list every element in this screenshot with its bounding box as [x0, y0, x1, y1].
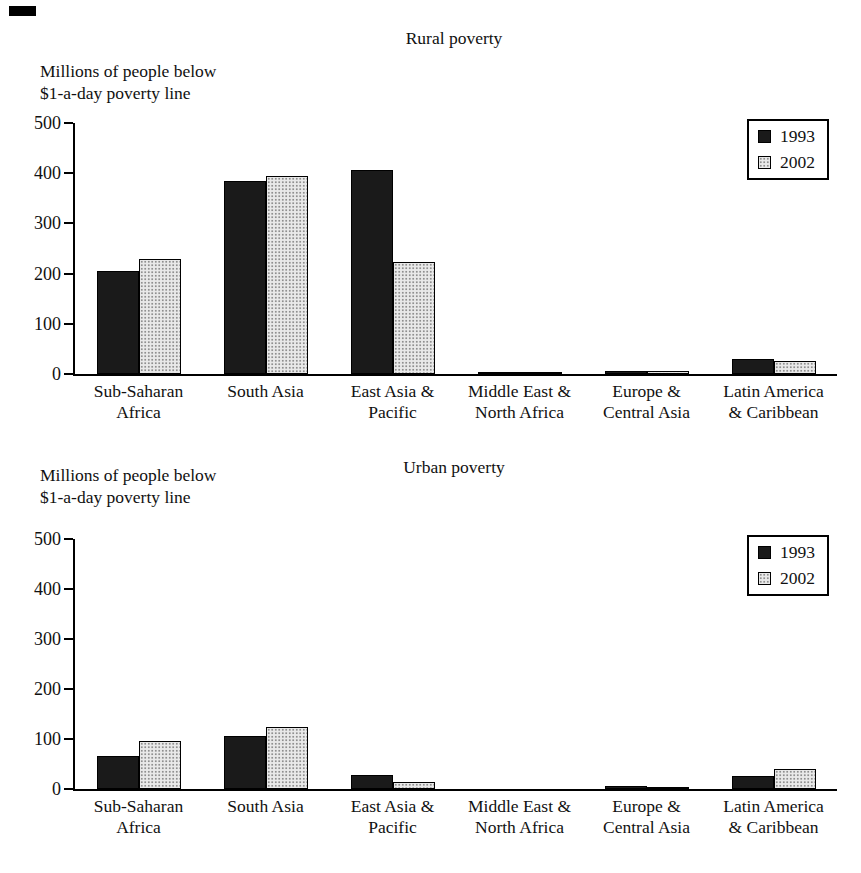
urban-y-axis-label-line1: Millions of people below	[40, 464, 216, 486]
legend-label-1993: 1993	[780, 126, 815, 147]
bar-1993-south-asia	[224, 181, 266, 374]
y-tick-label-300: 300	[13, 213, 61, 234]
bar-2002-latin-america-caribbean	[774, 769, 816, 789]
y-tick-label-200: 200	[13, 263, 61, 284]
bar-2002-south-asia	[266, 176, 308, 374]
legend-label-2002: 2002	[780, 152, 815, 173]
x-category-label-latin-america-caribbean: Latin America& Caribbean	[699, 381, 849, 423]
bar-2002-sub-saharan-africa	[139, 259, 181, 374]
y-tick-label-100: 100	[13, 729, 61, 750]
bar-1993-south-asia	[224, 736, 266, 790]
bar-1993-east-asia-pacific	[351, 775, 393, 789]
y-tick-label-200: 200	[13, 679, 61, 700]
corner-scan-mark	[9, 6, 36, 16]
urban-y-axis-label-line2: $1-a-day poverty line	[40, 486, 216, 508]
bar-2002-europe-central-asia	[647, 787, 689, 789]
rural-plot-area: 1993 2002 0100200300400500Sub-SaharanAfr…	[73, 123, 837, 376]
legend-swatch-2002	[758, 572, 771, 585]
x-category-label-line: & Caribbean	[699, 817, 849, 838]
bar-1993-sub-saharan-africa	[97, 756, 139, 789]
rural-legend: 1993 2002	[747, 119, 829, 180]
x-category-label-line: Latin America	[699, 796, 849, 817]
y-tick-label-400: 400	[13, 163, 61, 184]
y-tick-200	[64, 688, 73, 690]
bar-1993-middle-east-north-africa	[478, 372, 520, 375]
urban-plot-area: 1993 2002 0100200300400500Sub-SaharanAfr…	[73, 539, 837, 791]
bar-2002-south-asia	[266, 727, 308, 790]
y-tick-label-500: 500	[13, 529, 61, 550]
urban-legend-item-1993: 1993	[758, 542, 815, 563]
y-tick-label-500: 500	[13, 113, 61, 134]
rural-y-axis-label-line1: Millions of people below	[40, 60, 216, 82]
urban-y-axis-label: Millions of people below $1-a-day povert…	[40, 464, 216, 508]
bar-2002-middle-east-north-africa	[520, 372, 562, 375]
y-tick-100	[64, 738, 73, 740]
y-tick-200	[64, 273, 73, 275]
x-category-label-latin-america-caribbean: Latin America& Caribbean	[699, 796, 849, 838]
bar-1993-latin-america-caribbean	[732, 776, 774, 789]
y-tick-400	[64, 588, 73, 590]
bar-2002-latin-america-caribbean	[774, 361, 816, 374]
y-tick-label-0: 0	[13, 779, 61, 800]
y-tick-0	[64, 373, 73, 375]
urban-legend: 1993 2002	[747, 535, 829, 596]
bar-2002-east-asia-pacific	[393, 782, 435, 790]
y-tick-400	[64, 172, 73, 174]
legend-label-1993: 1993	[780, 542, 815, 563]
bar-2002-europe-central-asia	[647, 371, 689, 374]
y-tick-100	[64, 323, 73, 325]
rural-legend-item-1993: 1993	[758, 126, 815, 147]
rural-chart-title: Rural poverty	[73, 28, 835, 49]
bar-2002-sub-saharan-africa	[139, 741, 181, 790]
y-tick-300	[64, 222, 73, 224]
bar-1993-sub-saharan-africa	[97, 271, 139, 374]
bar-1993-east-asia-pacific	[351, 170, 393, 374]
legend-swatch-2002	[758, 156, 771, 169]
y-tick-label-400: 400	[13, 579, 61, 600]
legend-swatch-1993	[758, 546, 771, 559]
rural-legend-item-2002: 2002	[758, 152, 815, 173]
x-category-label-line: & Caribbean	[699, 402, 849, 423]
y-tick-0	[64, 788, 73, 790]
rural-y-axis-label-line2: $1-a-day poverty line	[40, 82, 216, 104]
y-tick-300	[64, 638, 73, 640]
legend-swatch-1993	[758, 130, 771, 143]
x-category-label-line: Latin America	[699, 381, 849, 402]
bar-1993-europe-central-asia	[605, 786, 647, 789]
bar-1993-europe-central-asia	[605, 371, 647, 374]
y-tick-500	[64, 122, 73, 124]
y-tick-label-100: 100	[13, 313, 61, 334]
x-category-label-line: Africa	[64, 817, 214, 838]
y-tick-label-300: 300	[13, 629, 61, 650]
bar-1993-latin-america-caribbean	[732, 359, 774, 374]
y-tick-500	[64, 538, 73, 540]
y-tick-label-0: 0	[13, 364, 61, 385]
x-category-label-line: Africa	[64, 402, 214, 423]
figure-page: Rural poverty Millions of people below $…	[0, 0, 861, 873]
legend-label-2002: 2002	[780, 568, 815, 589]
rural-y-axis-label: Millions of people below $1-a-day povert…	[40, 60, 216, 104]
urban-legend-item-2002: 2002	[758, 568, 815, 589]
bar-2002-east-asia-pacific	[393, 262, 435, 374]
